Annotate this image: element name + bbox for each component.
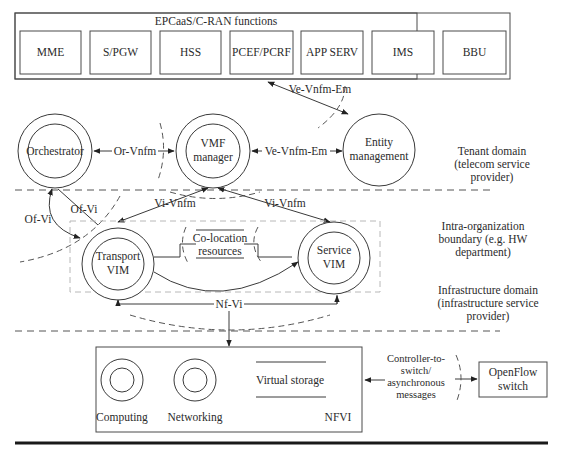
- svg-text:Tenant domain: Tenant domain: [458, 145, 527, 157]
- transport-vim-label-2: VIM: [107, 264, 129, 276]
- intra-org-label: Intra-organization boundary (e.g. HW dep…: [439, 220, 528, 259]
- tenant-domain-label: Tenant domain (telecom service provider): [454, 145, 530, 184]
- epc-function-label: IMS: [393, 46, 413, 58]
- epc-function-ims[interactable]: IMS: [372, 31, 434, 74]
- entity-management-node[interactable]: Entity management: [343, 114, 415, 186]
- of-vi-right-label: Of-Vi: [71, 203, 98, 215]
- svg-text:provider): provider): [471, 171, 514, 184]
- epc-function-label: S/PGW: [103, 46, 138, 58]
- colocation-label-1: Co-location: [193, 232, 248, 244]
- svg-text:(infrastructure service: (infrastructure service: [437, 297, 538, 310]
- or-vnfm-label: Or-Vnfm: [114, 145, 157, 157]
- service-vim-label-1: Service: [317, 244, 351, 256]
- virtual-storage-label: Virtual storage: [256, 374, 324, 387]
- svg-text:Intra-organization: Intra-organization: [442, 220, 525, 233]
- service-vim-label-2: VIM: [323, 258, 345, 270]
- vi-vnfm-left-label: Vi-Vnfm: [154, 197, 196, 209]
- entity-management-label-1: Entity: [365, 136, 393, 149]
- boundary-arc: [130, 315, 330, 330]
- svg-text:asynchronous: asynchronous: [387, 377, 445, 388]
- orchestrator-node[interactable]: Orchestrator: [18, 114, 92, 188]
- colocation-label-2: resources: [198, 245, 242, 257]
- transport-vim-label-1: Transport: [96, 250, 141, 263]
- nf-vi-label: Nf-Vi: [216, 298, 243, 310]
- entity-management-label-2: management: [350, 150, 410, 163]
- ve-vnfm-em-top-label: Ve-Vnfm-Em: [289, 83, 352, 95]
- nfvi-title: NFVI: [325, 411, 352, 423]
- boundary-arc: [182, 227, 188, 263]
- svg-text:provider): provider): [467, 310, 510, 323]
- of-vi-left-label: Of-Vi: [25, 213, 52, 225]
- controller-messages-label: Controller-to- switch/ asynchronous mess…: [387, 353, 446, 400]
- epc-function-label: MME: [37, 46, 64, 58]
- epc-group: EPCaaS/C-RAN functions MME S/PGW HSS PCE…: [15, 13, 506, 79]
- svg-text:(telecom service: (telecom service: [454, 158, 530, 171]
- epc-function-label: APP SERV: [306, 46, 359, 58]
- epc-function-app-serv[interactable]: APP SERV: [301, 31, 363, 74]
- svg-text:department): department): [455, 246, 511, 259]
- epc-function-mme[interactable]: MME: [20, 31, 81, 74]
- computing-label: Computing: [96, 411, 148, 424]
- orchestrator-label: Orchestrator: [26, 145, 84, 157]
- epc-function-pcef-pcrf[interactable]: PCEF/PCRF: [230, 31, 293, 74]
- openflow-switch-label-2: switch: [498, 380, 528, 392]
- vmf-manager-label-2: manager: [193, 151, 233, 164]
- nfv-architecture-diagram: EPCaaS/C-RAN functions MME S/PGW HSS PCE…: [0, 0, 564, 451]
- infrastructure-domain-label: Infrastructure domain (infrastructure se…: [437, 284, 538, 323]
- epc-function-bbu[interactable]: BBU: [443, 31, 506, 74]
- openflow-switch-node[interactable]: OpenFlow switch: [479, 362, 547, 397]
- epc-function-hss[interactable]: HSS: [160, 31, 221, 74]
- vi-vnfm-right-label: Vi-Vnfm: [264, 197, 306, 209]
- svg-text:messages: messages: [396, 389, 436, 400]
- epc-function-label: HSS: [180, 46, 201, 58]
- epc-function-spgw[interactable]: S/PGW: [90, 31, 151, 74]
- epc-function-label: PCEF/PCRF: [232, 46, 291, 58]
- svg-text:switch/: switch/: [401, 365, 431, 376]
- vmf-manager-label-1: VMF: [201, 137, 226, 149]
- epc-group-title: EPCaaS/C-RAN functions: [155, 15, 278, 27]
- nfvi-box[interactable]: Computing Networking Virtual storage NFV…: [96, 347, 362, 432]
- svg-text:Infrastructure domain: Infrastructure domain: [438, 284, 538, 296]
- vmf-manager-node[interactable]: VMF manager: [176, 114, 250, 188]
- svg-text:Controller-to-: Controller-to-: [387, 353, 446, 364]
- networking-label: Networking: [168, 411, 223, 424]
- openflow-switch-label-1: OpenFlow: [489, 366, 538, 379]
- ve-vnfm-em-label: Ve-Vnfm-Em: [265, 145, 328, 157]
- service-vim-node[interactable]: Service VIM: [298, 222, 370, 294]
- svg-text:boundary (e.g. HW: boundary (e.g. HW: [439, 233, 528, 246]
- transport-vim-node[interactable]: Transport VIM: [82, 228, 154, 300]
- transport-service-link: [154, 262, 298, 291]
- epc-function-label: BBU: [463, 46, 487, 58]
